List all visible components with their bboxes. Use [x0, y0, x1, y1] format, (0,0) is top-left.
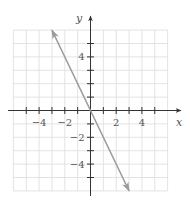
x-tick-label: 2: [113, 117, 119, 128]
x-tick-label: 4: [139, 117, 145, 128]
y-tick-label: −2: [70, 132, 85, 143]
x-tick-label: −4: [32, 117, 47, 128]
y-tick-label: −4: [70, 159, 85, 170]
x-axis-label: x: [176, 116, 183, 129]
x-tick-label: −2: [57, 117, 72, 128]
coordinate-plane: −4−2244−2−4 x y: [0, 0, 190, 204]
y-tick-label: 4: [78, 51, 84, 62]
y-axis-label: y: [75, 12, 83, 25]
